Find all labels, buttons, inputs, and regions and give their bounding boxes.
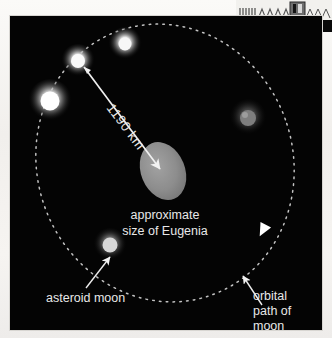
eugenia-orbit-figure: 1190 km approximate size of Eugenia aste… xyxy=(10,16,322,330)
orbit-label-line3: moon xyxy=(253,319,284,330)
orbit-label-line1: orbital xyxy=(253,289,287,303)
moon-right xyxy=(229,99,267,137)
asteroid-moon-label: asteroid moon xyxy=(46,291,125,305)
eugenia-caption-line1: approximate xyxy=(131,208,200,222)
moon-left xyxy=(28,79,72,123)
moon-upper-left xyxy=(61,44,95,78)
eugenia-caption-line2: size of Eugenia xyxy=(122,224,208,238)
orbit-label-line2: path of xyxy=(253,304,292,318)
moon-top xyxy=(108,27,142,61)
